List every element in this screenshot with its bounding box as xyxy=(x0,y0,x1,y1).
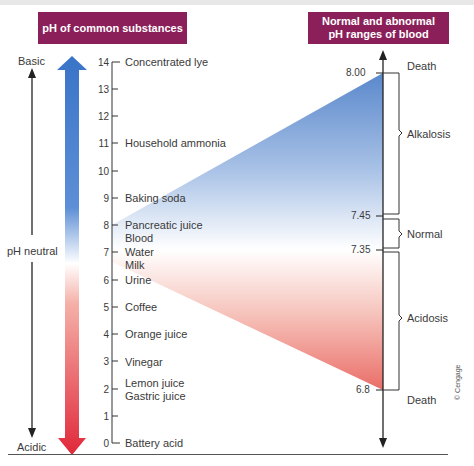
range-alkalosis: Alkalosis xyxy=(407,128,450,140)
tick-3: 3 xyxy=(89,356,109,367)
tick-10: 10 xyxy=(89,166,109,177)
substance-coffee: Coffee xyxy=(125,301,157,313)
tick-8: 8 xyxy=(89,220,109,231)
substance-lemon-juice: Lemon juice xyxy=(125,377,184,389)
range-brackets xyxy=(383,73,402,390)
substance-pancreatic-juice: Pancreatic juice xyxy=(125,219,203,231)
acidic-label: Acidic xyxy=(17,441,46,453)
substance-baking-soda: Baking soda xyxy=(125,192,186,204)
substance-urine: Urine xyxy=(125,274,151,286)
substance-gastric-juice: Gastric juice xyxy=(125,390,186,402)
range-death-bottom: Death xyxy=(407,394,436,406)
substance-blood: Blood xyxy=(125,232,153,244)
tick-14: 14 xyxy=(89,57,109,68)
tick-4: 4 xyxy=(89,329,109,340)
tick-2: 2 xyxy=(89,384,109,395)
substance-vinegar: Vinegar xyxy=(125,356,163,368)
blood-value-8-00: 8.00 xyxy=(346,67,365,79)
tick-7: 7 xyxy=(89,247,109,258)
blood-value-7-45: 7.45 xyxy=(351,210,370,222)
range-acidosis: Acidosis xyxy=(407,312,448,324)
tick-12: 12 xyxy=(89,111,109,122)
ph-neutral-label: pH neutral xyxy=(7,244,58,258)
tick-5: 5 xyxy=(89,302,109,313)
substance-concentrated-lye: Concentrated lye xyxy=(125,56,208,68)
substance-household-ammonia: Household ammonia xyxy=(125,137,226,149)
basic-label: Basic xyxy=(18,55,45,67)
ph-gradient-arrow xyxy=(57,56,87,455)
blood-value-7-35: 7.35 xyxy=(351,244,370,256)
substance-battery-acid: Battery acid xyxy=(125,437,183,449)
tick-13: 13 xyxy=(89,84,109,95)
blood-value-6-8: 6.8 xyxy=(356,384,370,396)
substance-orange-juice: Orange juice xyxy=(125,328,187,340)
tick-11: 11 xyxy=(89,138,109,149)
range-death-top: Death xyxy=(407,60,436,72)
tick-9: 9 xyxy=(89,193,109,204)
bottom-rule xyxy=(8,454,448,455)
substance-milk: Milk xyxy=(125,259,145,271)
tick-6: 6 xyxy=(89,275,109,286)
diagram-graphics xyxy=(0,0,474,466)
copyright-credit: © Cengage xyxy=(454,364,461,400)
tick-1: 1 xyxy=(89,411,109,422)
tick-0: 0 xyxy=(89,438,109,449)
range-normal: Normal xyxy=(407,228,442,240)
substance-water: Water xyxy=(125,246,154,258)
